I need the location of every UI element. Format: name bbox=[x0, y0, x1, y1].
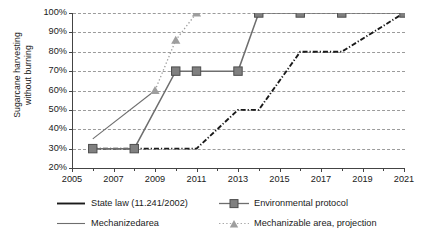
series-state-law-11-241-2002 bbox=[93, 13, 404, 149]
data-point-marker bbox=[192, 13, 201, 17]
series-mechanizedarea bbox=[93, 91, 155, 139]
y-tick-label: 80% bbox=[5, 46, 67, 56]
data-point-marker bbox=[234, 67, 242, 75]
y-tick-label: 60% bbox=[5, 85, 67, 95]
x-tick-mark bbox=[114, 168, 115, 172]
x-tick-mark bbox=[280, 168, 281, 172]
x-tick-mark-minor bbox=[300, 168, 301, 171]
legend-item-mechanized-area: Mechanizedarea bbox=[56, 218, 219, 229]
legend-item-mechanizable-area-projection: Mechanizable area, projection bbox=[219, 218, 416, 229]
legend-label-state-law: State law (11.241/2002) bbox=[91, 198, 188, 209]
legend-swatch-mechanized-area bbox=[56, 218, 86, 229]
x-tick-label: 2019 bbox=[343, 174, 383, 184]
x-tick-mark-minor bbox=[134, 168, 135, 171]
x-tick-mark-minor bbox=[342, 168, 343, 171]
x-tick-mark-minor bbox=[383, 168, 384, 171]
x-tick-label: 2005 bbox=[52, 174, 92, 184]
x-axis: 200520072009201120132015201720192021 bbox=[72, 168, 404, 192]
x-tick-label: 2021 bbox=[384, 174, 423, 184]
data-point-marker bbox=[296, 13, 304, 17]
y-tick-label: 20% bbox=[5, 162, 67, 172]
x-tick-mark bbox=[238, 168, 239, 172]
legend-label-mechanizable-area-projection: Mechanizable area, projection bbox=[254, 218, 377, 229]
series-mechanizable-area-projection bbox=[150, 13, 201, 94]
y-tick-label: 90% bbox=[5, 26, 67, 36]
chart-legend: State law (11.241/2002) Environmental pr… bbox=[56, 193, 416, 233]
x-tick-label: 2015 bbox=[260, 174, 300, 184]
data-point-marker bbox=[255, 13, 263, 17]
legend-swatch-mechanizable-area-projection bbox=[219, 218, 249, 229]
legend-label-environmental-protocol: Environmental protocol bbox=[254, 198, 348, 209]
y-tick-label: 50% bbox=[5, 104, 67, 114]
series-environmental-protocol bbox=[89, 13, 405, 153]
y-tick-label: 70% bbox=[5, 65, 67, 75]
series-layer bbox=[72, 13, 405, 169]
y-tick-label: 100% bbox=[5, 7, 67, 17]
x-tick-label: 2011 bbox=[177, 174, 217, 184]
x-tick-mark bbox=[72, 168, 73, 172]
y-tick-label: 40% bbox=[5, 123, 67, 133]
x-tick-mark bbox=[321, 168, 322, 172]
y-tick-label: 30% bbox=[5, 143, 67, 153]
x-tick-mark bbox=[404, 168, 405, 172]
legend-item-state-law: State law (11.241/2002) bbox=[56, 198, 219, 209]
x-tick-mark-minor bbox=[176, 168, 177, 171]
x-tick-mark-minor bbox=[259, 168, 260, 171]
x-tick-mark bbox=[363, 168, 364, 172]
x-tick-label: 2013 bbox=[218, 174, 258, 184]
data-point-marker bbox=[89, 144, 97, 152]
x-tick-mark-minor bbox=[93, 168, 94, 171]
data-point-marker bbox=[172, 67, 180, 75]
data-point-marker bbox=[150, 86, 159, 94]
chart-figure: Sugarcane harvesting without burning 200… bbox=[0, 0, 423, 234]
legend-item-environmental-protocol: Environmental protocol bbox=[219, 198, 416, 209]
legend-label-mechanized-area: Mechanizedarea bbox=[91, 218, 159, 229]
data-point-marker bbox=[338, 13, 346, 17]
x-tick-label: 2007 bbox=[94, 174, 134, 184]
data-point-marker bbox=[400, 13, 405, 17]
x-tick-mark-minor bbox=[217, 168, 218, 171]
legend-swatch-environmental-protocol bbox=[219, 198, 249, 209]
data-point-marker bbox=[130, 144, 138, 152]
x-tick-mark bbox=[197, 168, 198, 172]
x-tick-label: 2009 bbox=[135, 174, 175, 184]
x-tick-label: 2017 bbox=[301, 174, 341, 184]
data-point-marker bbox=[192, 67, 200, 75]
legend-swatch-state-law bbox=[56, 198, 86, 209]
x-tick-mark bbox=[155, 168, 156, 172]
